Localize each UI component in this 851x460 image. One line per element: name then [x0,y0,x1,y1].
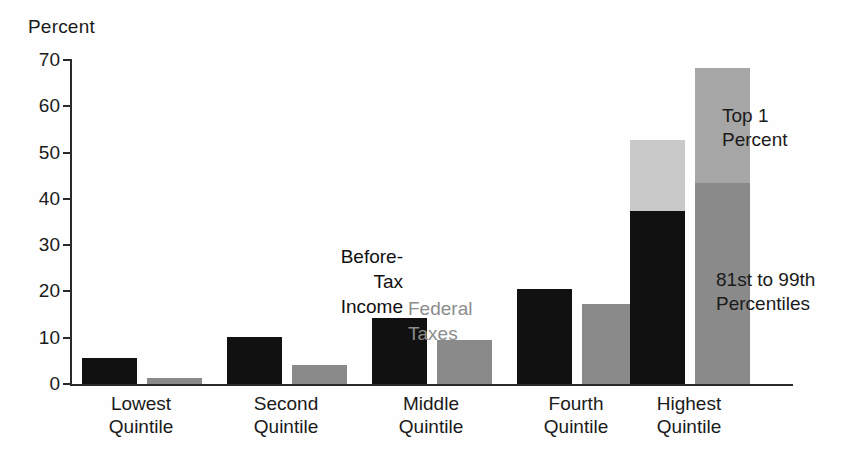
y-axis-tick-label: 40 [14,188,60,210]
x-axis-label-line1: Lowest [66,392,216,415]
annotation-top-1-percent-line2: Percent [722,128,787,152]
y-axis-tick-label: 50 [14,142,60,164]
x-axis-label: SecondQuintile [211,392,361,438]
legend-before-tax-income-line3: Income [311,294,403,319]
bar-before-tax-income[interactable] [630,140,685,384]
chart-container: Percent 706050403020100 LowestQuintileSe… [0,0,851,460]
bar-federal-taxes[interactable] [582,304,637,384]
y-axis-tick-label: 20 [14,280,60,302]
x-axis-label-line2: Quintile [356,415,506,438]
y-axis-tick-label: 10 [14,327,60,349]
x-axis-label: MiddleQuintile [356,392,506,438]
bar-federal-taxes[interactable] [292,365,347,384]
bar-segment-main[interactable] [147,378,202,384]
bar-group [227,60,347,384]
bar-segment-main[interactable] [437,340,492,384]
bar-federal-taxes[interactable] [147,378,202,384]
x-axis-label-line1: Highest [614,392,764,415]
x-axis-label: LowestQuintile [66,392,216,438]
bar-before-tax-income[interactable] [227,337,282,384]
y-axis-tick-labels: 706050403020100 [8,0,60,460]
legend-federal-taxes: Federal Taxes [408,296,518,346]
y-axis-tick-label: 0 [14,373,60,395]
x-axis-label-line2: Quintile [211,415,361,438]
bar-segment-main[interactable] [517,289,572,384]
bar-federal-taxes[interactable] [437,340,492,384]
bar-segment-top-1-percent[interactable] [630,140,685,211]
bar-segment-main[interactable] [292,365,347,384]
x-axis-label-line1: Second [211,392,361,415]
bar-segment-81st-to-99th[interactable] [630,211,685,384]
bar-before-tax-income[interactable] [82,358,137,384]
y-axis-tick-label: 70 [14,49,60,71]
bar-segment-main[interactable] [227,337,282,384]
bar-segment-main[interactable] [582,304,637,384]
bar-segment-main[interactable] [82,358,137,384]
x-axis-label-line2: Quintile [614,415,764,438]
y-axis-tick-label: 60 [14,95,60,117]
x-axis-label-line1: Middle [356,392,506,415]
x-axis-label-line2: Quintile [66,415,216,438]
annotation-81st-to-99th-line2: Percentiles [716,292,815,316]
annotation-top-1-percent: Top 1 Percent [722,104,787,152]
legend-before-tax-income-line1: Before- [311,244,403,269]
legend-before-tax-income-line2: Tax [311,269,403,294]
legend-federal-taxes-line1: Federal [408,296,518,321]
annotation-81st-to-99th-line1: 81st to 99th [716,268,815,292]
bar-before-tax-income[interactable] [517,289,572,384]
y-axis-tick-label: 30 [14,234,60,256]
legend-federal-taxes-line2: Taxes [408,321,518,346]
bar-group [82,60,202,384]
plot-area: LowestQuintileSecondQuintileMiddleQuinti… [70,0,793,460]
annotation-81st-to-99th-percentiles: 81st to 99th Percentiles [716,268,815,316]
annotation-top-1-percent-line1: Top 1 [722,104,787,128]
bar-group [517,60,637,384]
x-axis-label: HighestQuintile [614,392,764,438]
legend-before-tax-income: Before- Tax Income [311,244,403,319]
